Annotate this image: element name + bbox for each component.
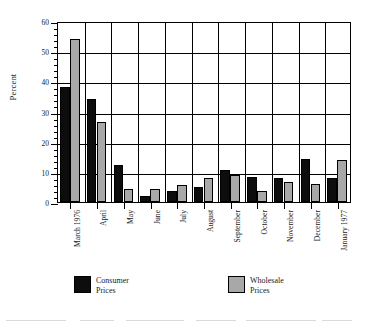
bar-wholesale [97, 122, 107, 202]
x-tick [204, 203, 205, 209]
bar-group [272, 23, 299, 202]
bar-group [58, 23, 85, 202]
y-tick-major [51, 114, 58, 115]
bar-wholesale [337, 160, 347, 202]
bar-wholesale [284, 182, 294, 202]
x-axis-label: May [127, 210, 135, 224]
bar-consumer [167, 191, 177, 202]
y-tick-label: 10 [42, 170, 50, 178]
legend-label: WholesalePrices [250, 276, 284, 295]
y-tick-label: 60 [42, 19, 50, 27]
y-axis-title: Percent [8, 52, 18, 122]
legend-item-wholesale[interactable]: WholesalePrices [228, 276, 284, 295]
scan-speckle [322, 320, 352, 321]
legend-label-line1: Wholesale [250, 276, 284, 286]
bar-group [138, 23, 165, 202]
scan-speckle [80, 320, 114, 321]
legend-label-line1: Consumer [96, 276, 129, 286]
legend-item-consumer[interactable]: ConsumerPrices [74, 276, 129, 295]
scan-speckle [196, 320, 236, 321]
scan-speckle [246, 320, 316, 321]
y-tick-label: 30 [42, 110, 50, 118]
y-tick-major [51, 23, 58, 24]
x-tick [177, 203, 178, 209]
bar-group [192, 23, 219, 202]
chart-legend: ConsumerPricesWholesalePrices [0, 276, 366, 310]
x-tick [284, 203, 285, 209]
bar-consumer [274, 178, 284, 202]
y-tick-label: 20 [42, 140, 50, 148]
x-tick [97, 203, 98, 209]
x-axis-label: October [261, 210, 269, 234]
bar-wholesale [150, 189, 160, 202]
x-axis-label: September [234, 210, 242, 242]
y-tick-label: 40 [42, 80, 50, 88]
bar-wholesale [70, 39, 80, 202]
x-axis-label: August [207, 210, 215, 232]
scan-speckle [6, 320, 66, 321]
x-tick [311, 203, 312, 209]
bar-wholesale [204, 178, 214, 202]
bar-consumer [194, 187, 204, 202]
scan-speckle [126, 320, 184, 321]
bar-wholesale [177, 185, 187, 202]
bar-consumer [87, 99, 97, 202]
bar-consumer [140, 196, 150, 202]
legend-swatch [228, 276, 245, 293]
bar-group [165, 23, 192, 202]
y-tick-major [51, 144, 58, 145]
x-axis-labels: March 1976AprilMayJuneJulyAugustSeptembe… [57, 210, 351, 270]
bar-consumer [327, 178, 337, 202]
x-tick [124, 203, 125, 209]
y-tick-label: 0 [45, 200, 49, 208]
x-tick [70, 203, 71, 209]
y-tick-major [51, 53, 58, 54]
bar-group [299, 23, 326, 202]
x-axis-label: April [100, 210, 108, 226]
legend-label-line2: Prices [96, 286, 129, 296]
x-axis-label: June [154, 210, 162, 224]
x-axis-label: March 1976 [74, 210, 82, 247]
bar-wholesale [311, 184, 321, 202]
x-tick [151, 203, 152, 209]
bar-consumer [301, 159, 311, 202]
bar-wholesale [230, 175, 240, 202]
y-tick-label: 50 [42, 49, 50, 57]
bar-group [218, 23, 245, 202]
bar-consumer [220, 170, 230, 202]
bar-group [245, 23, 272, 202]
y-tick-major [51, 83, 58, 84]
bar-wholesale [124, 189, 134, 202]
x-tick [257, 203, 258, 209]
bar-group [325, 23, 352, 202]
x-axis-label: July [180, 210, 188, 223]
y-tick-major [51, 174, 58, 175]
bar-consumer [114, 165, 124, 202]
x-axis-label: January 1977 [341, 210, 349, 251]
x-axis-label: November [287, 210, 295, 242]
legend-label: ConsumerPrices [96, 276, 129, 295]
bar-chart-figure: Percent 0102030405060 March 1976AprilMay… [0, 0, 366, 328]
x-axis-label: December [314, 210, 322, 241]
x-axis-ticks [57, 203, 351, 209]
bar-consumer [247, 177, 257, 202]
bar-group [85, 23, 112, 202]
bar-wholesale [257, 191, 267, 202]
scan-artifact [0, 318, 366, 326]
x-tick [231, 203, 232, 209]
x-tick [338, 203, 339, 209]
plot-area: 0102030405060 [57, 22, 351, 203]
bar-consumer [60, 87, 70, 202]
legend-label-line2: Prices [250, 286, 284, 296]
legend-swatch [74, 276, 91, 293]
bar-group [111, 23, 138, 202]
